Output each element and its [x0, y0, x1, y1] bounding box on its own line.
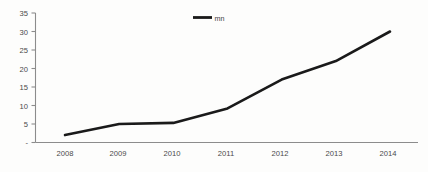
line-chart: 35 30 25 20 15 10 5 - 2008 2009 2010 201…	[0, 0, 428, 172]
y-tick-label-10: 10	[20, 102, 28, 111]
y-tick-label-35: 35	[20, 9, 28, 18]
x-tick-label-2010: 2010	[164, 149, 181, 158]
chart-screenshot: 35 30 25 20 15 10 5 - 2008 2009 2010 201…	[0, 0, 428, 172]
legend-label-mn: mn	[215, 14, 225, 23]
x-tick-label-2009: 2009	[110, 149, 127, 158]
y-tick-label-25: 25	[20, 46, 28, 55]
y-tick-label-5: 5	[24, 120, 28, 129]
x-tick-label-2013: 2013	[326, 149, 343, 158]
x-tick-label-2014: 2014	[380, 149, 397, 158]
y-tick-label-30: 30	[20, 28, 28, 37]
chart-background	[0, 0, 428, 172]
x-tick-label-2011: 2011	[218, 149, 234, 158]
x-tick-label-2008: 2008	[57, 149, 74, 158]
x-tick-label-2012: 2012	[272, 149, 289, 158]
y-tick-label-15: 15	[20, 83, 28, 92]
y-tick-label-20: 20	[20, 65, 28, 74]
